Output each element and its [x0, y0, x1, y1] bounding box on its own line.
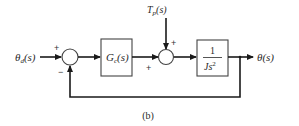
- figure-caption: (b): [142, 110, 154, 122]
- summer1-minus-sign: −: [58, 67, 63, 77]
- summer2-controller-plus-sign: +: [146, 63, 151, 73]
- plant-numerator: 1: [210, 45, 215, 56]
- summer2-disturbance-plus-sign: +: [171, 38, 176, 48]
- controller-label: Gc(s): [106, 51, 129, 65]
- summing-junction-1: [62, 49, 78, 65]
- block-diagram: θd(s) + − Gc(s) + Tp(s) + 1 Js2 θ(s) (b): [0, 0, 299, 126]
- input-label: θd(s): [15, 51, 36, 65]
- disturbance-label: Tp(s): [147, 4, 167, 17]
- summing-junction-2: [159, 50, 174, 65]
- summer1-plus-sign: +: [54, 43, 59, 53]
- output-label: θ(s): [257, 51, 274, 64]
